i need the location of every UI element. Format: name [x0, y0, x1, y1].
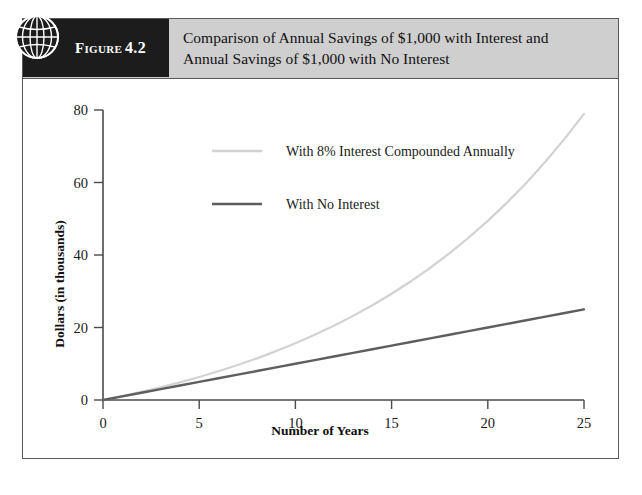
x-tick-label: 20 [481, 415, 496, 431]
figure-word: Figure [75, 40, 122, 56]
legend-label-with-interest: With 8% Interest Compounded Annually [286, 144, 515, 159]
figure-page: Figure4.2 Comparison of Annual Savings o… [0, 0, 642, 495]
x-tick-label: 0 [99, 415, 106, 431]
figure-number: 4.2 [125, 39, 146, 56]
y-axis-title: Dollars (in thousands) [52, 220, 67, 348]
x-tick-label: 15 [384, 415, 399, 431]
figure-title-line-2: Annual Savings of $1,000 with No Interes… [183, 48, 603, 69]
figure-number-label: Figure4.2 [75, 39, 146, 57]
x-tick-label: 25 [577, 415, 592, 431]
chart-legend: With 8% Interest Compounded Annually Wit… [212, 144, 515, 212]
y-tick-label: 60 [74, 175, 89, 191]
x-tick-label: 5 [196, 415, 203, 431]
x-axis-title: Number of Years [271, 423, 369, 438]
series-line-no-interest [103, 309, 584, 400]
figure-title: Comparison of Annual Savings of $1,000 w… [183, 27, 603, 69]
y-axis-ticks: 020406080 [74, 102, 104, 408]
y-tick-label: 40 [74, 247, 89, 263]
figure-title-line-1: Comparison of Annual Savings of $1,000 w… [183, 27, 603, 48]
line-chart: 020406080 0510152025 With 8% Interest Co… [22, 79, 619, 459]
y-tick-label: 80 [74, 102, 89, 118]
legend-label-no-interest: With No Interest [286, 197, 380, 212]
figure-header: Figure4.2 Comparison of Annual Savings o… [22, 18, 619, 79]
y-tick-label: 20 [74, 320, 89, 336]
globe-icon [9, 9, 65, 65]
y-tick-label: 0 [81, 392, 88, 408]
chart-area: 020406080 0510152025 With 8% Interest Co… [22, 79, 619, 459]
